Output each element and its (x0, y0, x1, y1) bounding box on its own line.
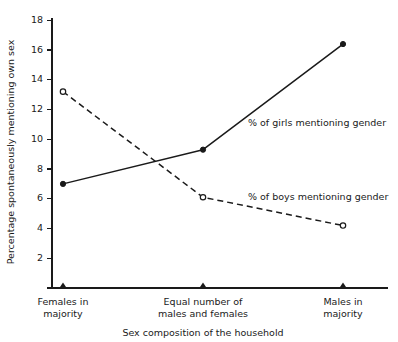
series-label-boys: % of boys mentioning gender (248, 191, 388, 202)
y-axis-ticks (47, 20, 52, 288)
x-axis-tick-labels: Females in majority Equal number of male… (38, 296, 364, 319)
x-tick-label: Females in (38, 296, 89, 307)
y-tick-label: 16 (31, 44, 43, 55)
x-tick-label: Males in (323, 296, 362, 307)
chart-figure: Percentage spontaneously mentioning own … (0, 0, 398, 342)
y-tick-label: 4 (37, 222, 43, 233)
data-point-open (340, 223, 345, 228)
data-point-filled (60, 181, 65, 186)
y-tick-label: 18 (31, 14, 43, 25)
x-tick-label: majority (43, 308, 83, 319)
series-line-girls (63, 44, 343, 184)
data-point-open (200, 195, 205, 200)
x-tick-label: males and females (158, 308, 248, 319)
series-markers-girls (60, 41, 345, 186)
x-tick-label: majority (323, 308, 363, 319)
x-axis-title: Sex composition of the household (122, 327, 283, 338)
x-tick-triangle (339, 283, 347, 289)
y-tick-label: 8 (37, 163, 43, 174)
y-tick-label: 6 (37, 192, 43, 203)
series-line-boys (63, 92, 343, 226)
series-label-girls: % of girls mentioning gender (248, 117, 386, 128)
data-point-open (60, 89, 65, 94)
data-point-filled (200, 147, 205, 152)
x-tick-label: Equal number of (164, 296, 243, 307)
y-axis-title: Percentage spontaneously mentioning own … (5, 39, 16, 264)
line-chart-svg: Percentage spontaneously mentioning own … (0, 0, 398, 342)
y-tick-label: 12 (31, 103, 43, 114)
y-tick-label: 10 (31, 133, 43, 144)
y-tick-label: 2 (37, 252, 43, 263)
y-tick-label: 14 (31, 73, 43, 84)
y-axis-tick-labels: 2 4 6 8 10 12 14 16 18 (31, 14, 43, 263)
x-tick-triangle (199, 283, 207, 289)
series-markers-boys (60, 89, 345, 228)
data-point-filled (340, 41, 345, 46)
x-tick-triangle (59, 283, 67, 289)
